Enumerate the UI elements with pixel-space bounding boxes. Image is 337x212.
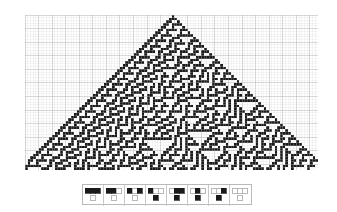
rule-case-010 xyxy=(188,185,209,206)
rule-diagram xyxy=(104,185,125,206)
rule-diagram xyxy=(230,185,251,206)
cellular-automaton-grid xyxy=(25,15,318,170)
rule-legend xyxy=(82,184,252,205)
rule-diagram xyxy=(188,185,209,206)
rule-case-101 xyxy=(125,185,146,206)
rule-diagram xyxy=(83,185,104,206)
rule-case-100 xyxy=(146,185,167,206)
rule-diagram xyxy=(146,185,167,206)
rule-diagram xyxy=(125,185,146,206)
rule-case-011 xyxy=(167,185,188,206)
rule-case-000 xyxy=(230,185,251,206)
rule-diagram xyxy=(167,185,188,206)
automaton-canvas xyxy=(25,15,318,170)
rule-case-111 xyxy=(83,185,104,206)
rule-30-figure xyxy=(0,0,337,212)
rule-case-110 xyxy=(104,185,125,206)
rule-diagram xyxy=(209,185,230,206)
rule-case-001 xyxy=(209,185,230,206)
